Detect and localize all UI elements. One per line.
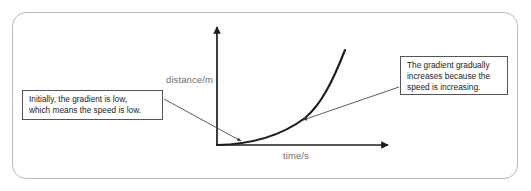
annotation-left-line-2: which means the speed is low.	[29, 105, 157, 116]
figure-root: distance/m time/s Initially, the gradien…	[0, 0, 531, 191]
distance-time-curve	[217, 50, 345, 145]
annotation-left-line-1: Initially, the gradient is low,	[29, 94, 157, 105]
annotation-box-initial-gradient: Initially, the gradient is low, which me…	[22, 90, 163, 120]
y-axis-label: distance/m	[166, 74, 213, 85]
annotation-right-line-2: increases because the	[407, 71, 502, 82]
x-axis-label: time/s	[283, 150, 309, 161]
leader-line-left	[164, 99, 241, 141]
annotation-box-increasing-gradient: The gradient gradually increases because…	[400, 56, 508, 95]
annotation-right-line-3: speed is increasing.	[407, 82, 502, 93]
annotation-right-line-1: The gradient gradually	[407, 60, 502, 71]
